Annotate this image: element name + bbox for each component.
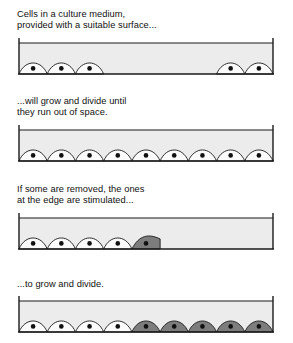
panel-2: ...will grow and divide until they run o… xyxy=(0,96,293,165)
panel-3-caption: If some are removed, the ones at the edg… xyxy=(0,184,293,207)
cell-nucleus xyxy=(31,241,36,246)
panel-4-caption: ...to grow and divide. xyxy=(0,279,293,290)
cell-culture-diagram: Cells in a culture medium, provided with… xyxy=(0,0,293,343)
cell-nucleus xyxy=(59,241,64,246)
cell-nucleus xyxy=(87,241,92,246)
cell-nucleus xyxy=(115,153,120,158)
cell-nucleus xyxy=(200,325,205,330)
cell-nucleus xyxy=(228,66,233,71)
cell-nucleus xyxy=(257,153,262,158)
cell-nucleus xyxy=(257,325,262,330)
panel-2-caption: ...will grow and divide until they run o… xyxy=(0,96,293,119)
cell-nucleus xyxy=(115,325,120,330)
cell-nucleus xyxy=(144,153,149,158)
cell-nucleus xyxy=(31,153,36,158)
panel-3-dish-svg xyxy=(17,211,275,253)
cell-nucleus xyxy=(87,66,92,71)
panel-3-dish xyxy=(17,211,275,253)
cell-nucleus xyxy=(115,241,120,246)
panel-3: If some are removed, the ones at the edg… xyxy=(0,184,293,253)
panel-1-dish-svg xyxy=(17,36,275,78)
cell-nucleus xyxy=(172,325,177,330)
panel-4: ...to grow and divide. xyxy=(0,279,293,336)
cell-nucleus xyxy=(144,241,149,246)
cell-nucleus xyxy=(59,66,64,71)
cell-nucleus xyxy=(59,325,64,330)
cell-nucleus xyxy=(59,153,64,158)
panel-1-dish xyxy=(17,36,275,78)
cell-nucleus xyxy=(228,153,233,158)
panel-1: Cells in a culture medium, provided with… xyxy=(0,9,293,78)
cell-nucleus xyxy=(144,325,149,330)
panel-2-dish xyxy=(17,123,275,165)
cell-nucleus xyxy=(31,66,36,71)
cell-nucleus xyxy=(87,325,92,330)
cell-nucleus xyxy=(31,325,36,330)
cell-nucleus xyxy=(200,153,205,158)
cell-nucleus xyxy=(257,66,262,71)
cell-nucleus xyxy=(172,153,177,158)
cell-nucleus xyxy=(228,325,233,330)
panel-1-caption: Cells in a culture medium, provided with… xyxy=(0,9,293,32)
panel-4-dish xyxy=(17,294,275,336)
panel-4-dish-svg xyxy=(17,294,275,336)
panel-2-dish-svg xyxy=(17,123,275,165)
cell-nucleus xyxy=(87,153,92,158)
